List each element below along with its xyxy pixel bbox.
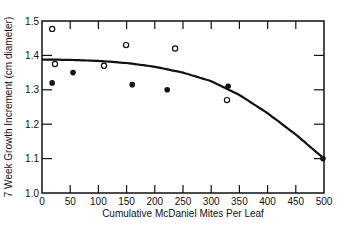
filled-circle-point	[164, 87, 170, 93]
tick-labels: 0501001502002503003504004505001.01.11.21…	[25, 16, 333, 208]
x-tick-label: 150	[118, 196, 135, 207]
axis-ticks	[42, 21, 324, 193]
y-tick-label: 1.2	[25, 119, 39, 130]
filled-circle-point	[49, 80, 55, 86]
plot-border	[42, 21, 324, 193]
y-tick-label: 1.1	[25, 153, 39, 164]
y-axis-label: 7 Week Growth Increment (cm diameter)	[3, 17, 14, 197]
x-tick-label: 300	[203, 196, 220, 207]
filled-circle-point	[129, 82, 135, 88]
y-tick-label: 1.4	[25, 50, 39, 61]
open-circle-point	[50, 26, 55, 31]
data-points	[49, 26, 325, 161]
open-circle-point	[52, 61, 57, 66]
x-tick-label: 400	[259, 196, 276, 207]
x-tick-label: 100	[90, 196, 107, 207]
x-tick-label: 0	[39, 196, 45, 207]
filled-circle-point	[70, 70, 76, 76]
x-tick-label: 450	[287, 196, 304, 207]
x-tick-label: 500	[316, 196, 333, 207]
open-circle-point	[101, 63, 106, 68]
filled-circle-point	[320, 156, 326, 162]
plot-frame	[42, 21, 324, 193]
y-tick-label: 1.0	[25, 188, 39, 199]
x-tick-label: 50	[65, 196, 77, 207]
open-circle-point	[173, 46, 178, 51]
y-tick-label: 1.3	[25, 84, 39, 95]
open-circle-point	[224, 98, 229, 103]
x-tick-label: 350	[231, 196, 248, 207]
x-tick-label: 200	[146, 196, 163, 207]
fitted-curve	[42, 60, 324, 159]
filled-circle-point	[225, 84, 231, 90]
open-circle-point	[123, 42, 128, 47]
y-tick-label: 1.5	[25, 16, 39, 27]
x-tick-label: 250	[175, 196, 192, 207]
x-axis-label: Cumulative McDaniel Mites Per Leaf	[102, 208, 264, 219]
scatter-chart: 0501001502002503003504004505001.01.11.21…	[0, 0, 341, 226]
